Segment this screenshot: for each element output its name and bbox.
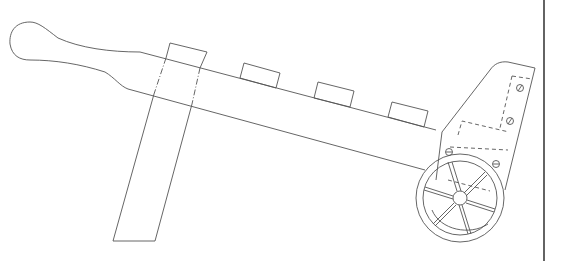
block-3 <box>388 102 428 127</box>
beam-bottom <box>128 89 425 170</box>
wheel <box>416 154 504 242</box>
leg <box>113 43 207 241</box>
block-2 <box>314 82 354 107</box>
block-1 <box>240 63 280 88</box>
cart-drawing <box>0 0 561 261</box>
handle-outline <box>10 22 140 89</box>
diagram-canvas <box>0 0 561 261</box>
